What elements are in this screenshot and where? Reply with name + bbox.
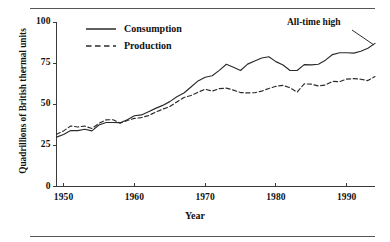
x-axis-tick-label: 1950 xyxy=(44,192,84,202)
x-axis-tick-label: 1970 xyxy=(185,192,225,202)
legend-label-consumption: Consumption xyxy=(124,23,182,34)
legend-label-production: Production xyxy=(124,40,172,51)
y-axis-title: Quadrillions of British thermal units xyxy=(18,16,28,186)
x-axis-title: Year xyxy=(0,210,390,221)
chart-plot-area xyxy=(0,0,390,242)
chart-series-group xyxy=(57,43,376,137)
y-axis-tick-label: 25 xyxy=(29,139,51,149)
x-axis-ticks xyxy=(64,183,347,187)
chart-legend: Consumption Production xyxy=(86,20,182,54)
y-axis-tick-label: 100 xyxy=(29,16,51,26)
y-axis-ticks xyxy=(53,22,57,187)
x-axis-tick-label: 1960 xyxy=(114,192,154,202)
y-axis-tick-label: 0 xyxy=(29,181,51,191)
annotation-all-time-high: All-time high xyxy=(287,17,341,27)
y-axis-tick-label: 50 xyxy=(29,98,51,108)
legend-line-dashed-icon xyxy=(86,41,116,51)
annotation-leader-line xyxy=(352,30,374,45)
series-line-production xyxy=(57,77,376,135)
figure: Quadrillions of British thermal units Ye… xyxy=(0,0,390,242)
x-axis-tick-label: 1980 xyxy=(256,192,296,202)
y-axis-tick-label: 75 xyxy=(29,57,51,67)
x-axis-tick-label: 1990 xyxy=(327,192,367,202)
legend-line-solid-icon xyxy=(86,24,116,34)
legend-item-production: Production xyxy=(86,37,182,54)
legend-item-consumption: Consumption xyxy=(86,20,182,37)
